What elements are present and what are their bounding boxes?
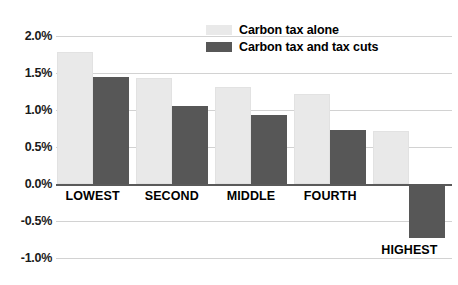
bar — [330, 130, 366, 184]
bar — [57, 52, 93, 184]
y-axis-tick-label: 0.5% — [0, 140, 52, 154]
bar — [294, 94, 330, 184]
x-axis-category-label: LOWEST — [66, 189, 120, 203]
gridline — [56, 221, 452, 222]
gridline — [56, 258, 452, 259]
y-axis-tick-label: 1.0% — [0, 103, 52, 117]
y-axis-tick-label: 1.5% — [0, 66, 52, 80]
legend-label-carbon-tax-alone: Carbon tax alone — [239, 23, 339, 37]
x-axis-category-label: MIDDLE — [227, 189, 276, 203]
bar — [136, 78, 172, 184]
chart-legend: Carbon tax alone Carbon tax and tax cuts — [206, 22, 378, 56]
bar — [251, 115, 287, 184]
bar — [172, 106, 208, 184]
y-axis-tick-label: -1.0% — [0, 251, 52, 265]
x-axis-category-label: FOURTH — [304, 189, 357, 203]
gridline — [56, 73, 452, 74]
y-axis-tick-label: -0.5% — [0, 214, 52, 228]
bar-chart: 2.0%1.5%1.0%0.5%0.0%-0.5%-1.0% LOWESTSEC… — [0, 0, 458, 285]
bar — [215, 87, 251, 184]
x-axis-category-label: SECOND — [145, 189, 199, 203]
legend-entry-carbon-tax-alone: Carbon tax alone — [206, 22, 378, 37]
plot-area: LOWESTSECONDMIDDLEFOURTHHIGHEST — [56, 36, 452, 258]
legend-swatch-icon-dark — [206, 42, 232, 52]
bar — [409, 184, 445, 238]
legend-label-carbon-tax-and-tax-cuts: Carbon tax and tax cuts — [239, 40, 378, 54]
bar — [93, 77, 129, 184]
legend-swatch-icon-light — [206, 25, 232, 35]
zero-line — [56, 184, 452, 186]
y-axis-tick-label: 0.0% — [0, 177, 52, 191]
bar — [373, 131, 409, 184]
x-axis-category-label: HIGHEST — [381, 243, 437, 257]
y-axis-tick-label: 2.0% — [0, 29, 52, 43]
legend-entry-carbon-tax-and-tax-cuts: Carbon tax and tax cuts — [206, 39, 378, 54]
